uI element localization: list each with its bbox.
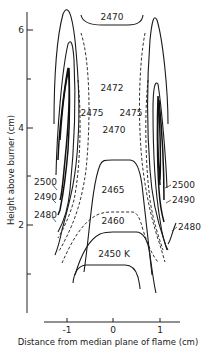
label-2500-right: 2500 [172, 180, 195, 190]
label-2450: 2450 K [98, 249, 131, 259]
label-2480-right: 2480 [178, 222, 201, 232]
contour-2460 [75, 232, 156, 293]
right-lobe [139, 18, 176, 262]
x-tick-neg1: -1 [63, 325, 72, 335]
label-2475-right: 2475 [120, 108, 143, 118]
label-2465: 2465 [102, 185, 125, 195]
x-axis: -1 0 1 Distance from median plane of fla… [18, 318, 198, 347]
left-lobe [54, 10, 89, 255]
label-2470-mid: 2470 [103, 125, 126, 135]
contour-chart: 6 4 2 Height above burner (cm) -1 0 1 Di… [0, 0, 208, 351]
x-axis-label: Distance from median plane of flame (cm) [18, 337, 198, 347]
label-2475-left: 2475 [81, 108, 104, 118]
y-tick-2: 2 [18, 220, 24, 230]
x-tick-1: 1 [157, 325, 163, 335]
label-2472: 2472 [101, 83, 124, 93]
y-axis-label: Height above burner (cm) [6, 115, 16, 225]
contour-2450 [73, 265, 140, 289]
y-tick-6: 6 [18, 25, 24, 35]
x-tick-0: 0 [110, 325, 116, 335]
y-tick-4: 4 [18, 123, 24, 133]
label-2470-top: 2470 [101, 12, 124, 22]
label-2480-left: 2480 [34, 210, 57, 220]
y-axis: 6 4 2 Height above burner (cm) [6, 12, 33, 313]
label-2460: 2460 [102, 216, 125, 226]
label-2490-right: 2490 [172, 195, 195, 205]
chart-canvas: 6 4 2 Height above burner (cm) -1 0 1 Di… [0, 0, 208, 351]
